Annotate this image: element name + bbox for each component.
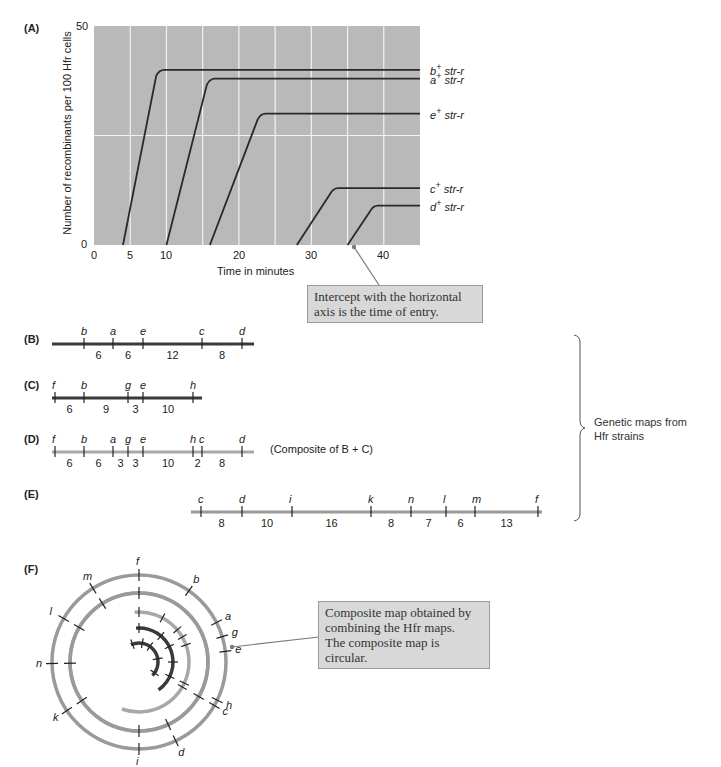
composite-callout-line1: Composite map obtained by: [325, 605, 483, 620]
composite-callout-line3: The composite map is circular.: [325, 635, 483, 665]
composite-callout-line2: combining the Hfr maps.: [325, 620, 483, 635]
composite-callout: Composite map obtained by combining the …: [318, 601, 490, 669]
